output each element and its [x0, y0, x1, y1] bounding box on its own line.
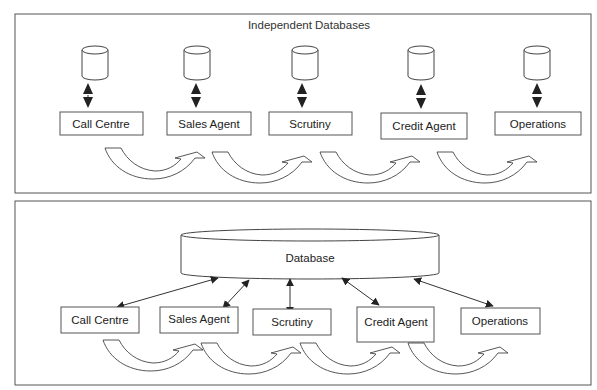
agent-label: Scrutiny	[271, 316, 313, 328]
agent-box-scrutiny: Scrutiny	[253, 309, 331, 335]
agent-label: Call Centre	[72, 118, 130, 130]
shared-database-icon: Database	[181, 229, 439, 279]
database-icon	[184, 46, 210, 80]
diagram-canvas: Independent Databases	[0, 0, 597, 390]
agent-box-sales-agent: Sales Agent	[167, 112, 251, 135]
agent-label: Credit Agent	[364, 316, 428, 328]
agent-box-credit-agent: Credit Agent	[357, 307, 434, 342]
agent-box-operations: Operations	[461, 308, 540, 334]
agent-box-operations: Operations	[495, 112, 581, 135]
agent-box-credit-agent: Credit Agent	[381, 113, 467, 139]
agent-label: Scrutiny	[289, 118, 331, 130]
database-icon	[524, 46, 550, 80]
database-icon	[82, 46, 108, 80]
agent-box-scrutiny: Scrutiny	[269, 112, 352, 135]
agent-box-sales-agent: Sales Agent	[160, 307, 238, 333]
agent-label: Sales Agent	[178, 118, 240, 130]
agent-label: Sales Agent	[168, 313, 230, 325]
agent-box-call-centre: Call Centre	[60, 112, 143, 135]
bottom-panel: Database Call Centre Sales Agent Scrutin…	[15, 201, 591, 385]
database-icon	[408, 46, 434, 80]
agent-label: Operations	[510, 118, 567, 130]
agent-label: Call Centre	[71, 314, 129, 326]
agent-box-call-centre: Call Centre	[61, 307, 139, 333]
top-panel-title: Independent Databases	[248, 19, 370, 31]
database-icon	[292, 46, 318, 80]
top-panel: Independent Databases	[15, 14, 591, 193]
database-label: Database	[285, 252, 334, 264]
agent-label: Operations	[472, 315, 529, 327]
agent-label: Credit Agent	[392, 120, 456, 132]
